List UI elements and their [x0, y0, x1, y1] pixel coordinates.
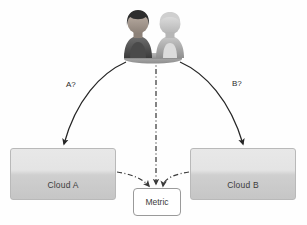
- people-group: [118, 6, 188, 64]
- edge-label-a: A?: [66, 80, 76, 89]
- cloud-b-label: Cloud B: [227, 180, 259, 199]
- cloud-a-label: Cloud A: [47, 180, 78, 199]
- edge-cloud-b-to-metric: [163, 172, 189, 186]
- metric-label: Metric: [145, 197, 168, 207]
- woman-avatar: [124, 10, 152, 58]
- edge-people-to-cloud-a: [64, 62, 126, 144]
- man-neck: [166, 32, 175, 38]
- edge-people-to-cloud-b: [180, 62, 243, 144]
- edge-cloud-a-to-metric: [117, 172, 149, 186]
- man-avatar: [156, 12, 184, 58]
- diagram-canvas: Cloud A Cloud B Metric A? B?: [0, 0, 307, 225]
- node-cloud-a[interactable]: Cloud A: [10, 148, 116, 200]
- edge-label-b: B?: [232, 79, 242, 88]
- node-cloud-b[interactable]: Cloud B: [190, 148, 296, 200]
- node-metric[interactable]: Metric: [133, 188, 181, 216]
